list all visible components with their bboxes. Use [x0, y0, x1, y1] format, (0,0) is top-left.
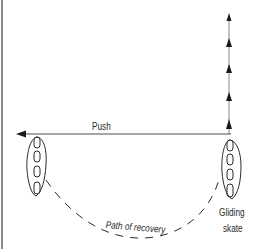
gliding-label: Gliding [219, 208, 245, 218]
skating-push-diagram: Push Path of recovery Gliding skate [0, 0, 256, 249]
glide-direction-arrows [226, 13, 232, 134]
left-skate-icon [27, 137, 46, 196]
push-arrow [16, 131, 231, 138]
gliding-skate-icon [222, 140, 241, 199]
skate-label: skate [223, 224, 243, 234]
push-label: Push [92, 122, 111, 132]
diagram-graphics [0, 0, 256, 249]
